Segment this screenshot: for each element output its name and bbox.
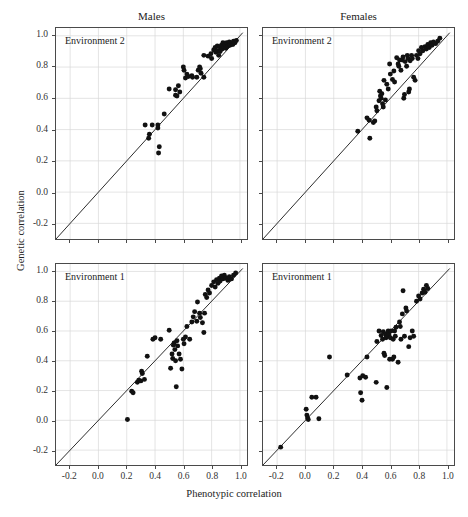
x-tick-label: 0.4 [140, 471, 170, 481]
y-tick-mark [52, 271, 55, 272]
x-tick-label: 1.0 [433, 471, 463, 481]
y-tick-mark [259, 271, 262, 272]
x-tick-mark [391, 240, 392, 243]
x-tick-mark [241, 466, 242, 469]
y-tick-mark [52, 391, 55, 392]
y-tick-label: 0.4 [6, 124, 48, 134]
y-tick-label: -0.2 [6, 218, 48, 228]
figure-container: Males Females Genetic correlation Phenot… [0, 0, 468, 517]
x-tick-mark [391, 466, 392, 469]
x-tick-label: 0.8 [197, 471, 227, 481]
x-tick-label: 0.0 [83, 471, 113, 481]
x-tick-mark [212, 466, 213, 469]
y-tick-mark [52, 331, 55, 332]
x-tick-mark [362, 466, 363, 469]
panel-label-females-env2: Environment 2 [272, 35, 332, 46]
y-tick-label: 0.4 [6, 355, 48, 365]
x-tick-label: 0.4 [347, 471, 377, 481]
y-tick-label: -0.2 [6, 445, 48, 455]
y-tick-mark [259, 301, 262, 302]
column-title-males: Males [55, 10, 248, 22]
x-tick-mark [305, 466, 306, 469]
x-tick-mark [333, 240, 334, 243]
x-tick-label: -0.2 [261, 471, 291, 481]
y-tick-mark [52, 130, 55, 131]
column-title-females: Females [262, 10, 455, 22]
y-tick-mark [52, 98, 55, 99]
y-tick-mark [259, 161, 262, 162]
y-tick-mark [259, 130, 262, 131]
x-tick-label: 0.6 [169, 471, 199, 481]
y-tick-mark [259, 421, 262, 422]
x-tick-mark [69, 240, 70, 243]
x-tick-label: 0.2 [318, 471, 348, 481]
y-tick-label: 0.6 [6, 92, 48, 102]
x-tick-mark [448, 466, 449, 469]
y-tick-mark [259, 35, 262, 36]
x-axis-title: Phenotypic correlation [0, 488, 468, 499]
y-tick-label: 0.8 [6, 60, 48, 70]
y-tick-label: 0.0 [6, 415, 48, 425]
panel-label-males-env1: Environment 1 [65, 271, 125, 282]
x-tick-mark [419, 240, 420, 243]
panel-females-environment-1: Environment 1 [262, 263, 455, 466]
x-tick-mark [276, 240, 277, 243]
x-tick-mark [305, 240, 306, 243]
y-tick-label: 0.2 [6, 385, 48, 395]
panel-males-environment-1: Environment 1 [55, 263, 248, 466]
x-tick-mark [98, 240, 99, 243]
y-tick-mark [52, 193, 55, 194]
y-tick-mark [52, 66, 55, 67]
x-tick-label: 0.0 [290, 471, 320, 481]
y-tick-label: 0.6 [6, 325, 48, 335]
y-tick-mark [259, 361, 262, 362]
y-tick-mark [259, 391, 262, 392]
y-tick-mark [52, 161, 55, 162]
x-tick-mark [241, 240, 242, 243]
panel-label-males-env2: Environment 2 [65, 35, 125, 46]
y-tick-mark [259, 66, 262, 67]
plot-area-females-env1 [263, 264, 454, 465]
x-tick-mark [184, 240, 185, 243]
y-tick-mark [259, 193, 262, 194]
y-tick-mark [52, 451, 55, 452]
x-tick-mark [333, 466, 334, 469]
panel-females-environment-2: Environment 2 [262, 27, 455, 240]
x-tick-mark [362, 240, 363, 243]
x-tick-label: 1.0 [226, 471, 256, 481]
x-tick-label: 0.8 [404, 471, 434, 481]
x-tick-label: 0.2 [111, 471, 141, 481]
y-tick-label: 0.8 [6, 295, 48, 305]
y-tick-mark [259, 98, 262, 99]
y-tick-mark [52, 301, 55, 302]
x-tick-label: -0.2 [54, 471, 84, 481]
x-tick-mark [419, 466, 420, 469]
panel-label-females-env1: Environment 1 [272, 271, 332, 282]
plot-area-females-env2 [263, 28, 454, 239]
y-tick-mark [52, 361, 55, 362]
x-tick-mark [184, 466, 185, 469]
x-tick-mark [276, 466, 277, 469]
panel-males-environment-2: Environment 2 [55, 27, 248, 240]
x-tick-mark [126, 240, 127, 243]
x-tick-mark [212, 240, 213, 243]
y-tick-label: 0.2 [6, 155, 48, 165]
x-tick-mark [155, 466, 156, 469]
y-tick-label: 0.0 [6, 187, 48, 197]
x-tick-mark [69, 466, 70, 469]
x-tick-mark [448, 240, 449, 243]
y-axis-title: Genetic correlation [15, 141, 26, 321]
plot-area-males-env2 [56, 28, 247, 239]
y-tick-mark [259, 451, 262, 452]
y-tick-mark [259, 331, 262, 332]
x-tick-mark [155, 240, 156, 243]
y-tick-mark [52, 35, 55, 36]
x-tick-mark [126, 466, 127, 469]
x-tick-label: 0.6 [376, 471, 406, 481]
plot-area-males-env1 [56, 264, 247, 465]
y-tick-label: 1.0 [6, 29, 48, 39]
y-tick-mark [52, 421, 55, 422]
y-tick-mark [52, 224, 55, 225]
x-tick-mark [98, 466, 99, 469]
y-tick-mark [259, 224, 262, 225]
